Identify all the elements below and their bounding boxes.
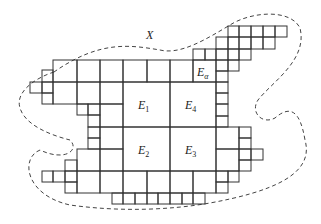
grid-cells [30,26,287,204]
label-e1: E1 [137,98,149,114]
set-x-label: X [145,28,154,42]
label-e3: E3 [184,143,196,159]
dyadic-decomposition-diagram: X E1 E4 E2 E3 Eα [0,0,321,224]
label-e4: E4 [184,98,196,114]
label-e-alpha: Eα [196,65,209,81]
label-e2: E2 [137,143,149,159]
